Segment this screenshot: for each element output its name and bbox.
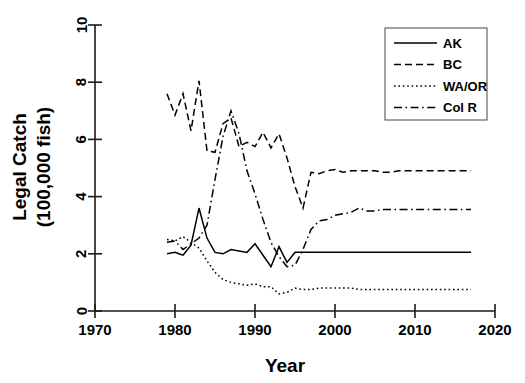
legend-label-bc[interactable]: BC	[443, 57, 462, 72]
y-tick-label: 0	[73, 307, 90, 315]
line-chart: 0246810 197019801990200020102020 Year Le…	[0, 0, 525, 383]
y-axis-title-line2: (100,000 fish)	[33, 107, 54, 227]
y-tick-label: 10	[73, 17, 90, 34]
chart-legend[interactable]: AKBCWA/ORCol R	[385, 28, 488, 120]
x-axis-title: Year	[265, 355, 306, 376]
y-axis-title-line1: Legal Catch	[9, 113, 30, 221]
x-tick-label: 2010	[398, 321, 431, 338]
legend-label-col-r[interactable]: Col R	[443, 100, 478, 115]
legend-label-wa-or[interactable]: WA/OR	[443, 79, 488, 94]
x-tick-label: 1970	[78, 321, 111, 338]
y-tick-label: 8	[73, 78, 90, 86]
x-tick-label: 1980	[158, 321, 191, 338]
y-tick-label: 6	[73, 135, 90, 143]
y-tick-label: 2	[73, 250, 90, 258]
y-tick-label: 4	[73, 192, 90, 201]
legend-label-ak[interactable]: AK	[443, 36, 462, 51]
x-tick-label: 1990	[238, 321, 271, 338]
chart-figure: 0246810 197019801990200020102020 Year Le…	[0, 0, 525, 383]
x-tick-label: 2000	[318, 321, 351, 338]
x-tick-label: 2020	[478, 321, 511, 338]
